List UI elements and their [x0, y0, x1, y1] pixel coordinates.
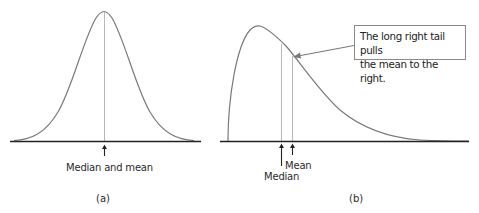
- mean-label: Mean: [285, 160, 311, 171]
- callout-box: The long right tail pulls the mean to th…: [354, 25, 466, 60]
- callout-line-1: The long right tail pulls: [360, 29, 465, 57]
- median-and-mean-label: Median and mean: [66, 162, 153, 173]
- median-arrow-icon: [279, 144, 284, 167]
- arrow-up-icon: [102, 145, 107, 157]
- median-label: Median: [264, 171, 299, 182]
- panel-a-graphic: [10, 12, 201, 157]
- callout-line-2: the mean to the right.: [360, 57, 465, 85]
- mean-arrow-icon: [290, 144, 295, 156]
- panel-a-label: (a): [96, 193, 110, 204]
- callout-pointer-arrow: [293, 46, 354, 59]
- panel-b-label: (b): [349, 193, 363, 204]
